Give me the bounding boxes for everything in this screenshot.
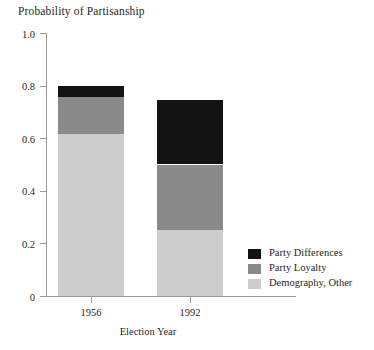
bar-1956 [58,33,124,296]
y-tick: 0 [40,296,46,297]
y-tick-mark [40,296,46,297]
y-tick-label: 0.4 [22,186,35,197]
legend-item: Party Differences [248,246,372,261]
x-axis-title: Election Year [0,326,296,337]
y-tick-label: 0 [30,291,35,302]
chart-title: Probability of Partisanship [18,5,145,17]
bar-segment [58,97,124,134]
y-tick-label: 0.2 [22,238,35,249]
y-tick-label: 0.8 [22,81,35,92]
legend-item: Party Loyalty [248,261,372,276]
y-tick-label: 0.6 [22,133,35,144]
legend-swatch [248,279,261,289]
bar-segment [58,86,124,98]
bar-segment [157,230,223,296]
bar-segment [157,165,223,231]
x-tick-mark [91,297,92,303]
legend-label: Party Differences [269,248,343,259]
x-tick-label: 1992 [180,307,201,318]
bar-1992 [157,33,223,296]
x-tick-label: 1956 [81,307,102,318]
chart-legend: Party DifferencesParty LoyaltyDemography… [248,246,372,291]
y-tick-label: 1.0 [22,28,35,39]
legend-swatch [248,249,261,259]
legend-label: Demography, Other [269,278,352,289]
legend-item: Demography, Other [248,276,372,291]
bar-segment [58,134,124,296]
legend-swatch [248,264,261,274]
x-tick-mark [190,297,191,303]
bar-segment [157,100,223,164]
x-axis-line [46,296,296,297]
stacked-bar-chart: Probability of Partisanship 00.20.40.60.… [0,0,374,350]
legend-label: Party Loyalty [269,263,326,274]
